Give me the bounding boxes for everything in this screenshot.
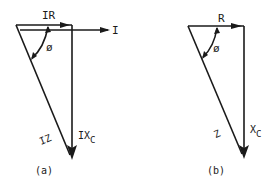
diagram-b: R ø Z XC (b) <box>188 12 261 176</box>
phase-angle-label: ø <box>46 41 53 54</box>
current-arrowhead-icon <box>100 27 110 33</box>
current-label: I <box>112 24 119 37</box>
ir-arrowhead-icon <box>60 22 70 28</box>
phase-angle-label: ø <box>213 42 220 55</box>
caption-b: (b) <box>207 165 225 176</box>
caption-a: (a) <box>35 165 53 176</box>
diagram-a: IR I ø IZ IXC (a) <box>16 9 119 176</box>
ixc-label: IXC <box>78 130 95 145</box>
phasor-diagrams: IR I ø IZ IXC (a) R ø Z XC (b) <box>0 0 279 189</box>
angle-arrowhead-icon <box>214 27 220 34</box>
z-label: Z <box>212 128 222 140</box>
ir-label: IR <box>42 9 56 22</box>
iz-label: IZ <box>38 132 53 147</box>
r-label: R <box>218 12 225 25</box>
xc-label: XC <box>250 124 261 139</box>
r-arrowhead-icon <box>231 23 242 29</box>
